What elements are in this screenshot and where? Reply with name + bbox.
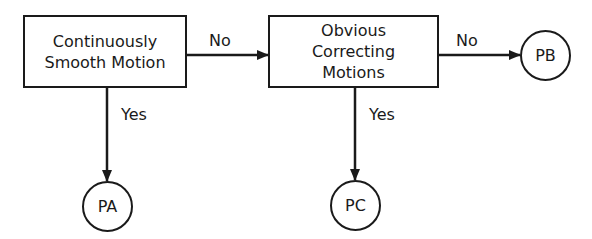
decision-box-continuously-smooth-motion: Continuously Smooth Motion	[23, 15, 187, 88]
edge-label-yes: Yes	[369, 106, 395, 124]
terminal-node-label: PA	[98, 197, 118, 216]
edge-label-no: No	[209, 32, 231, 50]
terminal-node-pc: PC	[330, 180, 381, 231]
edge-label-no: No	[456, 32, 478, 50]
flowchart: Continuously Smooth Motion Obvious Corre…	[0, 0, 592, 239]
decision-box-line: Correcting	[312, 41, 395, 62]
decision-box-obvious-correcting-motions: Obvious Correcting Motions	[268, 15, 439, 88]
decision-box-line: Continuously	[53, 31, 157, 52]
terminal-node-pb: PB	[520, 30, 571, 81]
terminal-node-label: PB	[535, 46, 556, 65]
decision-box-line: Obvious	[321, 20, 386, 41]
terminal-node-pa: PA	[82, 181, 133, 232]
edge-label-yes: Yes	[121, 106, 147, 124]
terminal-node-label: PC	[345, 196, 366, 215]
decision-box-line: Motions	[322, 62, 385, 83]
decision-box-line: Smooth Motion	[44, 52, 165, 73]
